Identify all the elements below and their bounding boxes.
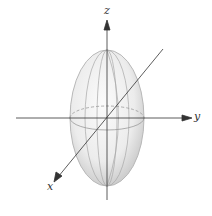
- ellipsoid-diagram: [0, 0, 212, 216]
- x-axis-label: x: [47, 180, 53, 193]
- z-arrow-icon: [104, 20, 110, 30]
- y-arrow-icon: [182, 115, 192, 121]
- y-axis-label: y: [194, 110, 200, 123]
- z-axis-label: z: [104, 4, 110, 17]
